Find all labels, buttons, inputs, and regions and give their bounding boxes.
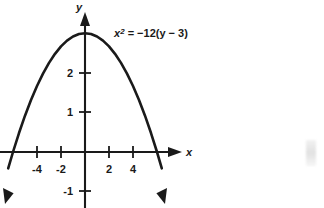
parabola-curve bbox=[0, 0, 8, 31]
right-branch-arrowhead bbox=[156, 188, 167, 204]
equation-annotation: x2 = −12(y − 3) bbox=[113, 27, 188, 39]
x-axis-arrowhead bbox=[168, 147, 182, 157]
x-axis-label: x bbox=[185, 146, 193, 158]
x-tick-label-4: 4 bbox=[130, 163, 137, 175]
y-axis-label: y bbox=[75, 1, 83, 13]
x-tick-label-2: 2 bbox=[106, 163, 112, 175]
y-tick-label-1: 1 bbox=[67, 106, 73, 118]
left-branch-arrowhead bbox=[3, 188, 14, 204]
parabola-figure: -4 -2 2 4 1 2 -1 x y x2 = −12(y − 3) bbox=[0, 0, 324, 208]
y-axis bbox=[80, 12, 90, 208]
y-axis-arrowhead bbox=[80, 12, 90, 26]
x-tick-label-neg4: -4 bbox=[32, 163, 43, 175]
equation-rest: = −12(y − 3) bbox=[125, 27, 189, 39]
y-tick-label-2: 2 bbox=[67, 67, 73, 79]
scan-smudge bbox=[306, 140, 316, 166]
x-tick-label-neg2: -2 bbox=[56, 163, 66, 175]
y-tick-label-neg1: -1 bbox=[63, 185, 73, 197]
